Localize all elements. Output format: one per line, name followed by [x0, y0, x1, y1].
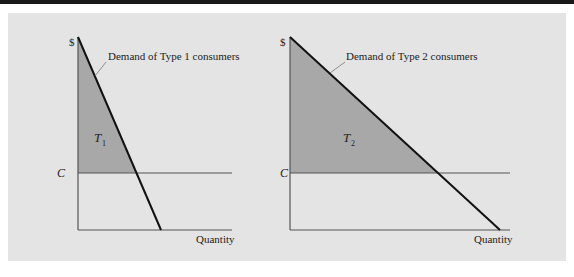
chart-svg: $ Demand of Type 1 consumers C T 1 Quant…	[0, 0, 574, 277]
right-c-label: C	[280, 166, 289, 180]
right-annotation: Demand of Type 2 consumers	[346, 50, 478, 62]
right-t-sub: 2	[351, 139, 355, 148]
left-y-label: $	[69, 36, 75, 48]
right-y-label: $	[280, 36, 286, 48]
right-annotation-leader	[330, 62, 345, 73]
left-t-sub: 1	[102, 139, 106, 148]
left-t-label: T	[94, 130, 102, 145]
left-x-label: Quantity	[196, 233, 235, 245]
right-t-label: T	[343, 130, 351, 145]
left-c-label: C	[57, 166, 66, 180]
right-chart: $ Demand of Type 2 consumers C T 2 Quant…	[280, 36, 513, 245]
left-chart: $ Demand of Type 1 consumers C T 1 Quant…	[57, 36, 240, 245]
left-annotation-leader	[95, 62, 106, 76]
right-x-label: Quantity	[474, 233, 513, 245]
left-annotation: Demand of Type 1 consumers	[108, 50, 240, 62]
